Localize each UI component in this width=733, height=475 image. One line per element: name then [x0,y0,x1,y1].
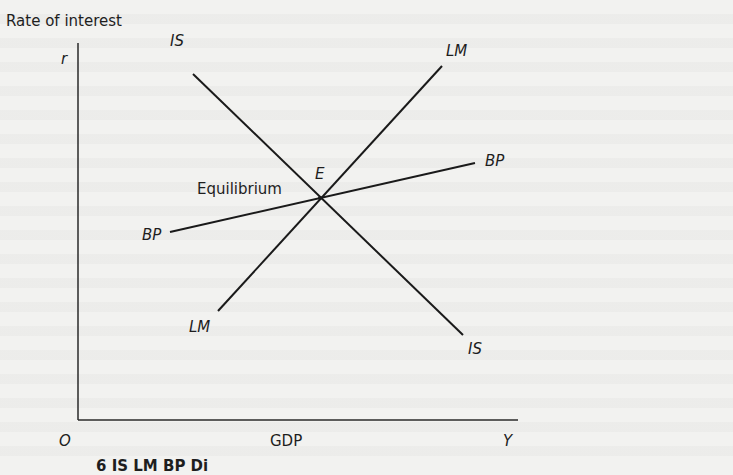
bp-label-left: BP [142,228,161,243]
lm-label-top: LM [446,44,467,59]
y-axis-symbol: r [61,52,67,67]
is-curve [193,74,463,335]
is-label-bottom: IS [468,342,482,357]
equilibrium-label: Equilibrium [197,182,282,197]
x-axis-symbol: Y [503,434,512,449]
equilibrium-point-label: E [315,167,324,182]
equilibrium-point [318,196,322,200]
bp-label-right: BP [485,154,504,169]
x-axis-title: GDP [270,434,302,449]
y-axis-title: Rate of interest [6,14,122,29]
origin-label: O [59,434,71,449]
figure-caption: 6 IS LM BP Di [96,459,208,474]
is-label-top: IS [170,34,184,49]
lm-label-bottom: LM [189,320,210,335]
